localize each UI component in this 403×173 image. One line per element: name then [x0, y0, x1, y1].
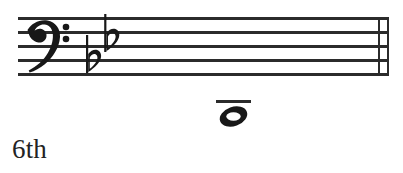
- whole-notehead: [217, 103, 250, 131]
- bass-clef-dot-lower: [63, 36, 70, 43]
- flat-accidental-2: [86, 35, 101, 73]
- interval-caption: 6th: [0, 134, 231, 164]
- music-notation-figure: 6th: [0, 0, 403, 173]
- note-group: [216, 102, 251, 131]
- bass-clef-dot-upper: [63, 24, 70, 31]
- key-signature: [86, 14, 119, 73]
- staff-lines: [18, 19, 389, 75]
